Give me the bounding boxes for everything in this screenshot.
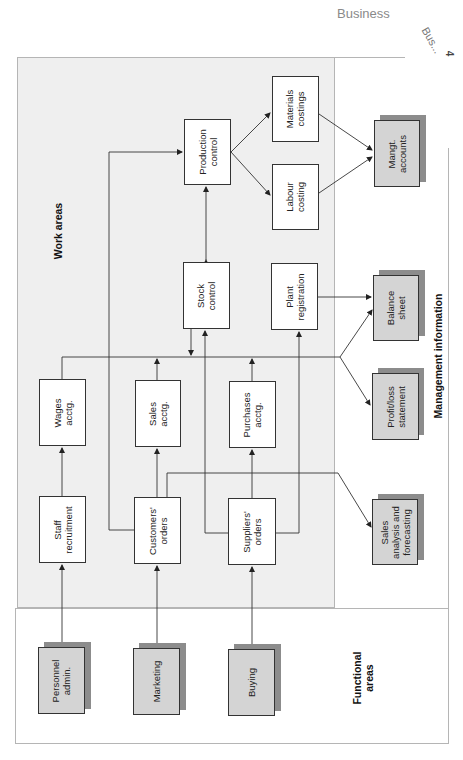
buying-label: Buying: [246, 668, 257, 697]
production-control-box: Production control: [184, 119, 231, 185]
wages-acctg-label: Wages acctg.: [52, 398, 74, 427]
materials-costings-box: Materials costings: [272, 76, 319, 142]
sales-acctg-label: Sales acctg.: [147, 401, 169, 426]
sales-analysis-label: Sales analysis and forecasting: [379, 506, 412, 559]
sales-acctg-box: Sales acctg.: [135, 380, 181, 447]
staff-recruitment-label: Staff recruitment: [52, 506, 74, 554]
suppliers-orders-box: Suppliers' orders: [228, 498, 276, 565]
balance-sheet-label: Balance sheet: [385, 291, 407, 325]
stock-control-box: Stock control: [183, 262, 230, 329]
management-information-label: Management information: [432, 293, 446, 419]
staff-recruitment-box: Staff recruitment: [39, 496, 86, 563]
customers-orders-label: Customers' orders: [147, 507, 169, 555]
sales-analysis-box: Sales analysis and forecasting: [372, 499, 418, 565]
profit-loss-label: Profit/loss statement: [385, 386, 407, 428]
suppliers-orders-label: Suppliers' orders: [241, 511, 263, 552]
buying-box: Buying: [228, 649, 275, 716]
purchases-acctg-label: Purchases acctg.: [241, 392, 263, 437]
customers-orders-box: Customers' orders: [134, 497, 181, 564]
marketing-label: Marketing: [151, 661, 162, 703]
plant-registration-box: Plant registration: [271, 263, 318, 330]
production-control-label: Production control: [197, 129, 219, 174]
wages-acctg-box: Wages acctg.: [39, 379, 86, 446]
work-areas-label: Work areas: [52, 199, 66, 263]
mangt-accounts-box: Mangt. accounts: [374, 120, 420, 187]
profit-loss-box: Profit/loss statement: [372, 373, 419, 440]
mangt-accounts-label: Mangt. accounts: [386, 134, 408, 172]
marketing-box: Marketing: [133, 648, 180, 715]
personnel-admin-label: Personnel admin.: [51, 659, 73, 702]
stock-control-label: Stock control: [195, 281, 217, 310]
plant-registration-label: Plant registration: [284, 273, 306, 320]
labour-costing-label: Labour costing: [284, 182, 306, 212]
labour-costing-box: Labour costing: [272, 164, 319, 230]
personnel-admin-box: Personnel admin.: [38, 647, 85, 714]
purchases-acctg-box: Purchases acctg.: [229, 381, 276, 448]
functional-areas-label: Functional areas: [351, 651, 377, 705]
balance-sheet-box: Balance sheet: [373, 275, 419, 341]
materials-costings-label: Materials costings: [284, 90, 306, 129]
